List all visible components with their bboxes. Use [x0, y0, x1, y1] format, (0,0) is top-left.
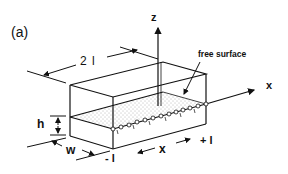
free-surface-leader: [184, 62, 200, 94]
free-surface-label: free surface: [198, 50, 246, 59]
z-axis-label: z: [151, 12, 157, 23]
plus-l-label: + l: [200, 135, 213, 146]
panel-label: (a): [11, 25, 28, 39]
tank-diagram: [0, 0, 288, 174]
length-label: 2 l: [80, 55, 96, 67]
figure-canvas: (a) z x free surface 2 l h w x - l + l: [0, 0, 288, 174]
height-label: h: [37, 118, 44, 130]
x-axis: [206, 90, 254, 104]
width-label: w: [66, 144, 75, 156]
minus-l-label: - l: [105, 153, 115, 164]
x-dimension-label: x: [159, 143, 166, 155]
x-axis-label: x: [266, 80, 272, 91]
